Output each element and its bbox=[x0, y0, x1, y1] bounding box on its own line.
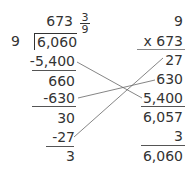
connector-lines bbox=[0, 0, 195, 174]
